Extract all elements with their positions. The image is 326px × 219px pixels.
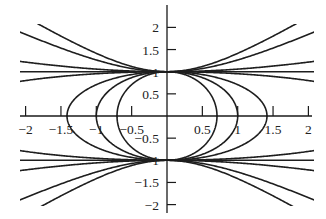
y-tick-label: −0.5 [135,131,160,146]
y-tick-label: 1.5 [142,43,159,58]
y-tick-label: −1 [145,153,159,168]
x-tick-label: 2 [305,122,312,137]
y-tick-label: 0.5 [142,87,159,102]
conic-family-plot: −2−1.5−1−0.50.511.52 21.510.5−0.5−1−1.5−… [0,0,326,219]
x-tick-label: 0.5 [194,122,211,137]
x-axis-ticks: −2−1.5−1−0.50.511.52 [18,106,311,137]
y-tick-label: 1 [152,65,159,80]
y-tick-label: 2 [152,20,159,35]
y-tick-label: −2 [145,198,159,213]
x-tick-label: 1.5 [265,122,282,137]
y-tick-label: −1.5 [135,175,160,190]
x-tick-label: −1 [89,122,103,137]
x-tick-label: 1 [234,122,241,137]
x-tick-label: −2 [18,122,32,137]
x-tick-label: −1.5 [49,122,74,137]
